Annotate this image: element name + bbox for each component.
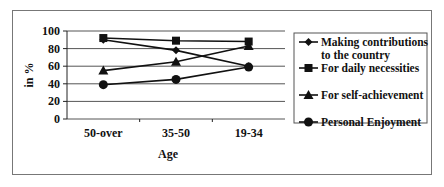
circle-marker-icon [99, 80, 108, 89]
square-marker-icon [305, 64, 313, 72]
legend: Making contributionsto the countryFor da… [294, 33, 429, 129]
legend-label: Personal Enjoyment [321, 116, 421, 129]
square-marker-icon [99, 34, 107, 42]
series-line [99, 34, 252, 46]
circle-marker-icon [244, 63, 253, 72]
x-axis: 50-over35-5019-34 [84, 119, 263, 140]
y-tick-label: 0 [54, 112, 60, 126]
legend-label: Making contributions [321, 36, 429, 49]
x-tick-label: 19-34 [235, 126, 263, 140]
y-axis-label: in % [22, 62, 36, 87]
y-tick-label: 40 [48, 77, 60, 91]
y-tick-label: 100 [42, 24, 60, 38]
x-axis-label: Age [158, 147, 179, 161]
y-tick-label: 20 [48, 94, 60, 108]
line-chart: 020406080100 50-over35-5019-34 in % Age … [0, 0, 444, 187]
x-tick-label: 50-over [84, 126, 123, 140]
legend-label: For daily necessities [321, 62, 420, 75]
y-tick-label: 60 [48, 59, 60, 73]
x-tick-label: 35-50 [162, 126, 190, 140]
square-marker-icon [172, 37, 180, 45]
y-tick-label: 80 [48, 42, 60, 56]
circle-marker-icon [304, 118, 313, 127]
legend-label: to the country [321, 49, 390, 62]
diamond-marker-icon [172, 46, 180, 54]
y-axis: 020406080100 [42, 24, 67, 126]
legend-label: For self-achievement [321, 89, 423, 101]
circle-marker-icon [172, 75, 181, 84]
series-group [98, 34, 253, 89]
